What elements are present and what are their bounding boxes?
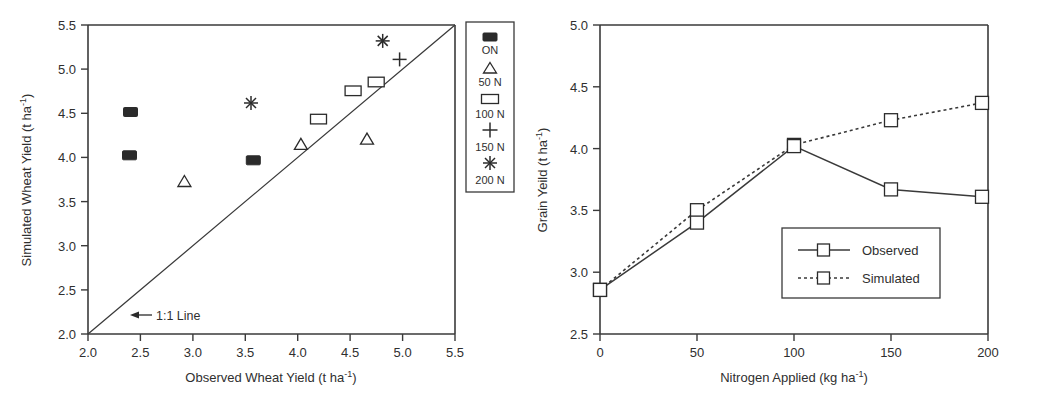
legend-marker-filled-square-icon <box>483 33 497 41</box>
x-tick-label: 2.5 <box>131 345 149 360</box>
legend-label: Simulated <box>862 271 920 286</box>
plus-marker <box>393 52 407 66</box>
scatter-legend: ON 50 N 100 N 150 N <box>466 22 514 192</box>
line-panel: 5.0 4.5 4.0 3.5 3.0 2.5 0 50 100 150 20 <box>520 0 1037 401</box>
legend-marker-open-square-icon <box>818 244 830 256</box>
legend-label: Observed <box>862 243 918 258</box>
arrow-left-icon <box>130 312 139 319</box>
one-to-one-label: 1:1 Line <box>156 309 201 323</box>
x-tick-label: 4.0 <box>289 345 307 360</box>
x-axis-tick-labels: 2.0 2.5 3.0 3.5 4.0 4.5 5.0 5.5 <box>79 345 464 360</box>
scatter-series-100n <box>311 77 385 124</box>
legend-label: 150 N <box>475 141 504 153</box>
y-tick-label: 2.5 <box>570 327 588 342</box>
line-legend: Observed Simulated <box>782 228 940 298</box>
x-tick-label: 5.5 <box>446 345 464 360</box>
x-tick-label: 3.5 <box>236 345 254 360</box>
legend-marker-open-square-icon <box>818 272 830 284</box>
x-axis-title: Observed Wheat Yield (t ha-1) <box>185 369 356 385</box>
x-tick-label: 100 <box>783 345 805 360</box>
legend-label: ON <box>482 44 499 56</box>
x-tick-label: 3.0 <box>184 345 202 360</box>
y-tick-label: 4.5 <box>58 106 76 121</box>
x-tick-label: 2.0 <box>79 345 97 360</box>
asterisk-marker <box>244 96 258 110</box>
y-axis-title: Simulated Wheat Yield (t ha-1) <box>18 94 34 267</box>
legend-marker-asterisk-icon <box>483 156 497 170</box>
one-to-one-line <box>88 25 455 334</box>
data-point-marker <box>976 96 989 109</box>
one-to-one-annotation: 1:1 Line <box>130 309 201 323</box>
y-axis-tick-labels: 5.5 5.0 4.5 4.0 3.5 3.0 2.5 2.0 <box>58 18 76 342</box>
data-point-marker <box>885 183 898 196</box>
legend-marker-open-rect-icon <box>482 95 499 104</box>
y-tick-label: 4.0 <box>570 142 588 157</box>
y-tick-label: 3.0 <box>570 265 588 280</box>
x-axis-title: Nitrogen Applied (kg ha-1) <box>720 369 868 385</box>
scatter-series-0n <box>123 108 261 165</box>
legend-label: 50 N <box>478 76 501 88</box>
y-tick-label: 2.5 <box>58 283 76 298</box>
asterisk-marker <box>376 34 390 48</box>
x-tick-label: 50 <box>690 345 704 360</box>
data-point-marker <box>976 190 989 203</box>
y-axis-ticks <box>81 25 88 334</box>
x-axis-tick-labels: 0 50 100 150 200 <box>596 345 998 360</box>
legend-frame <box>782 228 940 298</box>
legend-item-0n[interactable]: ON <box>482 33 499 56</box>
x-axis-ticks <box>88 334 455 341</box>
data-point-marker <box>691 216 704 229</box>
data-point-marker <box>691 204 704 217</box>
y-tick-label: 4.5 <box>570 80 588 95</box>
y-tick-label: 5.0 <box>570 18 588 33</box>
y-tick-label: 3.5 <box>570 203 588 218</box>
y-axis-tick-labels: 5.0 4.5 4.0 3.5 3.0 2.5 <box>570 18 588 342</box>
x-axis-ticks <box>600 334 988 341</box>
data-point-marker <box>788 140 801 153</box>
x-tick-label: 5.0 <box>394 345 412 360</box>
x-tick-label: 0 <box>596 345 603 360</box>
y-tick-label: 2.0 <box>58 327 76 342</box>
data-point-marker <box>594 283 607 296</box>
data-point-marker <box>885 114 898 127</box>
x-tick-label: 150 <box>880 345 902 360</box>
legend-label: 100 N <box>475 108 504 120</box>
y-tick-label: 4.0 <box>58 150 76 165</box>
scatter-series-50n <box>178 133 374 186</box>
scatter-plot-svg: 5.5 5.0 4.5 4.0 3.5 3.0 2.5 2.0 <box>0 0 520 401</box>
y-axis-title: Grain Yeild (t ha-1) <box>534 128 550 233</box>
y-tick-label: 5.5 <box>58 18 76 33</box>
legend-label: 200 N <box>475 174 504 186</box>
scatter-panel: 5.5 5.0 4.5 4.0 3.5 3.0 2.5 2.0 <box>0 0 520 401</box>
figure-container: 5.5 5.0 4.5 4.0 3.5 3.0 2.5 2.0 <box>0 0 1037 401</box>
y-tick-label: 3.5 <box>58 195 76 210</box>
y-tick-label: 3.0 <box>58 239 76 254</box>
scatter-series-150n <box>393 52 407 66</box>
x-tick-label: 4.5 <box>341 345 359 360</box>
line-plot-svg: 5.0 4.5 4.0 3.5 3.0 2.5 0 50 100 150 20 <box>520 0 1037 401</box>
y-tick-label: 5.0 <box>58 62 76 77</box>
x-tick-label: 200 <box>977 345 999 360</box>
